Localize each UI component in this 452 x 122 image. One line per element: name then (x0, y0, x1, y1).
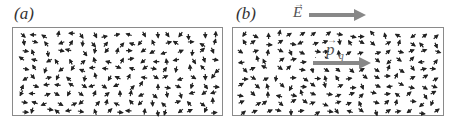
dipole-field (0, 0, 452, 122)
electric-field-label: → E (293, 4, 302, 21)
polarization-label: → p q (326, 40, 344, 61)
